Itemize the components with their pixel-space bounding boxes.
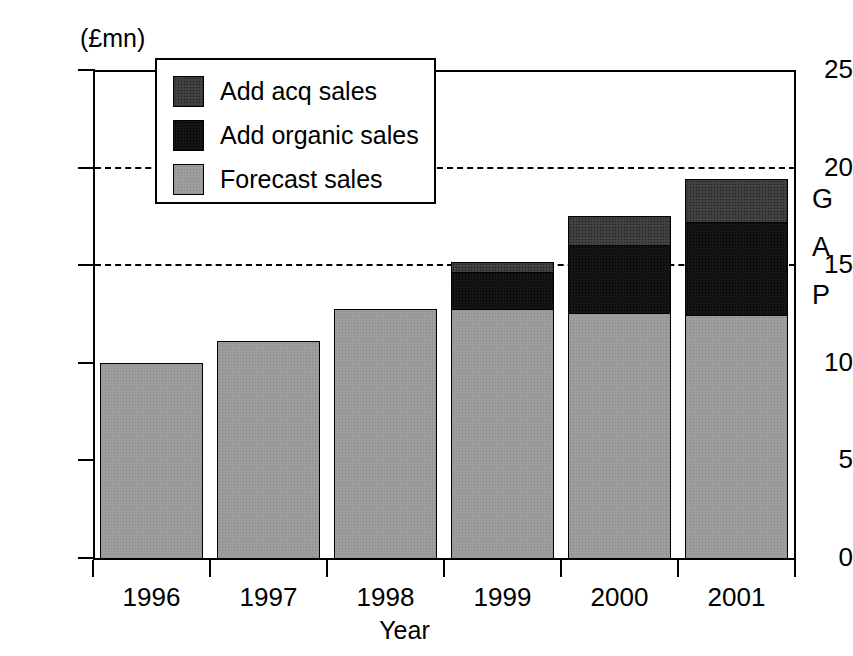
x-axis-tick-label-1996: 1996: [92, 582, 212, 612]
bar-chart: (£mn) 0510152025 19961997199819992000200…: [0, 0, 853, 656]
x-axis-tick: [794, 560, 796, 577]
x-axis-title: Year: [0, 616, 853, 645]
bar-segment-acq-2000: [568, 216, 671, 246]
legend-item: Add organic sales: [173, 118, 419, 152]
gap-letter-p: P: [812, 282, 852, 330]
x-axis-tick-label-2001: 2001: [677, 582, 797, 612]
x-axis-tick: [443, 560, 445, 577]
bar-segment-organic-2001: [685, 221, 788, 316]
x-axis-title-text: Year: [379, 616, 430, 644]
legend-label: Add acq sales: [220, 79, 377, 104]
x-axis-tick-label-1999: 1999: [443, 582, 563, 612]
bar-segment-forecast-1996: [100, 363, 203, 560]
bar-segment-organic-2000: [568, 245, 671, 314]
bar-segment-acq-2001: [685, 179, 788, 222]
bar-segment-organic-1999: [451, 271, 554, 310]
x-axis-tick-label-2000: 2000: [560, 582, 680, 612]
x-axis-tick: [326, 560, 328, 577]
x-axis-tick: [677, 560, 679, 577]
legend-label: Forecast sales: [220, 167, 383, 192]
bar-group-2000: [568, 70, 671, 558]
x-axis-tick: [92, 560, 94, 577]
x-axis-tick: [209, 560, 211, 577]
legend-swatch: [173, 120, 204, 151]
legend-item: Forecast sales: [173, 162, 383, 196]
x-axis-tick: [560, 560, 562, 577]
bar-segment-forecast-2001: [685, 315, 788, 560]
gap-letter-g: G: [812, 186, 852, 234]
gap-annotation: GAP: [812, 186, 852, 330]
bar-segment-acq-1999: [451, 262, 554, 272]
legend-label: Add organic sales: [220, 123, 419, 148]
legend-swatch: [173, 76, 204, 107]
bar-segment-forecast-2000: [568, 312, 671, 559]
bar-group-1999: [451, 70, 554, 558]
gap-letter-a: A: [812, 234, 852, 282]
bar-group-2001: [685, 70, 788, 558]
bar-segment-forecast-1999: [451, 308, 554, 559]
x-axis-tick-label-1997: 1997: [209, 582, 329, 612]
legend: Add acq salesAdd organic salesForecast s…: [155, 58, 436, 204]
legend-item: Add acq sales: [173, 74, 377, 108]
bar-segment-forecast-1998: [334, 309, 437, 559]
bar-segment-forecast-1997: [217, 341, 320, 559]
legend-swatch: [173, 164, 204, 195]
x-axis-tick-label-1998: 1998: [326, 582, 446, 612]
